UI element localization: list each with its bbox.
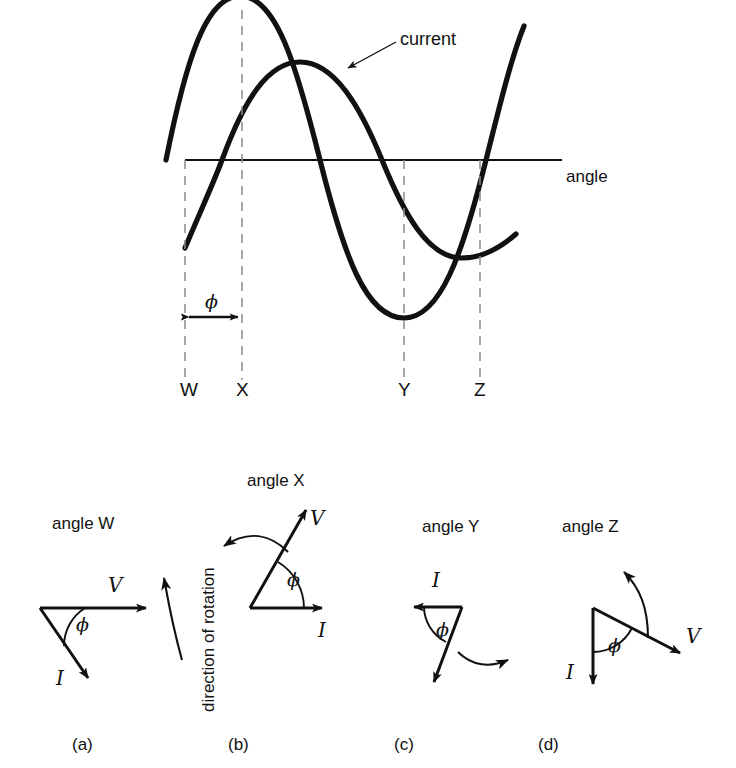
phasor-b-title: angle X — [247, 472, 305, 489]
direction-of-rotation-label: direction of rotation — [200, 567, 217, 712]
phasor-b-v-vector — [250, 510, 306, 608]
phasor-d-caption: (d) — [538, 736, 559, 753]
phasor-c-caption: (c) — [394, 736, 414, 753]
phasor-c-title: angle Y — [422, 518, 479, 535]
phasor-d-v-vector — [593, 608, 680, 653]
phasor-a-phi-label: ϕ — [76, 615, 89, 634]
phasor-c-i-label: I — [432, 570, 440, 590]
phasor-c-rotation-arc — [458, 652, 508, 665]
phasor-a-i-label: I — [56, 668, 64, 688]
phasor-b-i-label: I — [318, 620, 326, 640]
figure-root: current angle ϕ W X Y Z — [0, 0, 736, 768]
phasor-d-v-label: V — [686, 626, 700, 646]
phasor-diagrams — [0, 0, 736, 768]
phasor-diagram-b — [224, 510, 322, 608]
phasor-d-phi-label: ϕ — [608, 636, 621, 655]
phasor-d-rotation-arc — [624, 572, 648, 638]
phasor-a-v-label: V — [108, 575, 122, 595]
phasor-b-v-label: V — [310, 508, 324, 528]
phasor-b-caption: (b) — [228, 736, 249, 753]
phasor-diagram-d — [593, 572, 680, 684]
phasor-a-title: angle W — [52, 515, 114, 532]
phasor-a-caption: (a) — [72, 736, 93, 753]
phasor-c-phi-label: ϕ — [436, 620, 449, 639]
phasor-d-i-label: I — [566, 662, 574, 682]
phasor-d-title: angle Z — [562, 518, 619, 535]
phasor-diagram-c — [414, 607, 508, 682]
phasor-a-rotation-arc — [164, 578, 182, 660]
phasor-b-phi-label: ϕ — [287, 570, 300, 589]
phasor-b-rotation-arc — [224, 536, 288, 552]
